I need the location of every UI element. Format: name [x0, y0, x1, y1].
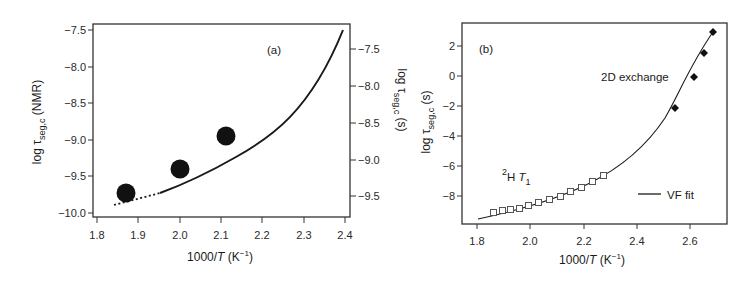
panel-label-b: (b) [479, 43, 493, 55]
x-tick-label: 2.1 [213, 229, 228, 241]
y-right-tick-label: −9.0 [358, 154, 380, 166]
x-axis-b [477, 224, 690, 229]
x-tick-label: 1.8 [89, 229, 104, 241]
y-axis-left-a [88, 30, 93, 213]
x-tick-label: 2.4 [629, 235, 644, 247]
y-axis-right-a [350, 49, 356, 196]
x-tick-label: 2.0 [522, 235, 537, 247]
annotation-2d-exchange: 2D exchange [601, 71, 669, 83]
data-point [217, 127, 236, 146]
y-tick-label: −9.0 [64, 134, 86, 146]
x-axis-label-b: 1000/T (K−1) [559, 252, 625, 267]
y-tick-label: 2 [449, 40, 455, 52]
y-tick-label: −8.5 [64, 97, 86, 109]
x-tick-label: 1.9 [130, 229, 145, 241]
x-tick-label: 2.2 [576, 235, 591, 247]
y-tick-label: −4 [442, 130, 455, 142]
y-axis-label-right-a: log τseg,c (s) [392, 69, 409, 132]
data-point [117, 184, 136, 203]
y-right-tick-label: −8.0 [358, 80, 380, 92]
x-axis-a [97, 217, 345, 223]
annotation-2h-t1: 2H T1 [502, 167, 531, 187]
y-tick-label: −7.5 [64, 24, 86, 36]
panel-a: −7.5 −8.0 −8.5 −9.0 −9.5 −10.0 −7.5 −8.0… [30, 24, 409, 264]
x-tick-label: 2.2 [254, 229, 269, 241]
y-axis-label-b: log τseg,c (s) [419, 91, 436, 154]
y-tick-label: 0 [449, 70, 455, 82]
panel-label-a: (a) [267, 44, 281, 56]
y-right-tick-label: −8.5 [358, 117, 380, 129]
y-tick-label: −9.5 [64, 170, 86, 182]
x-tick-label: 2.0 [172, 229, 187, 241]
x-axis-label-a: 1000/T (K−1) [187, 249, 253, 264]
y-axis-b [457, 46, 462, 196]
series-2d-exchange [671, 28, 717, 112]
y-tick-label: −6 [442, 160, 455, 172]
y-tick-label: −8 [442, 190, 455, 202]
y-tick-label: −2 [442, 100, 455, 112]
x-tick-label: 1.8 [469, 235, 484, 247]
y-axis-label-a: log τseg,c (NMR) [30, 80, 47, 164]
y-tick-label: −8.0 [64, 61, 86, 73]
x-tick-label: 2.3 [296, 229, 311, 241]
x-tick-label: 2.6 [682, 235, 697, 247]
panel-b: 2 0 −2 −4 −6 −8 1.8 2.0 2.2 2.4 2.6 1000… [419, 23, 727, 267]
data-point [171, 160, 190, 179]
y-right-tick-label: −7.5 [358, 43, 380, 55]
figure: −7.5 −8.0 −8.5 −9.0 −9.5 −10.0 −7.5 −8.0… [0, 0, 752, 281]
y-right-tick-label: −9.5 [358, 190, 380, 202]
x-tick-label: 2.4 [337, 229, 352, 241]
legend-label-vf-fit: VF fit [667, 189, 695, 201]
y-tick-label: −10.0 [58, 207, 86, 219]
